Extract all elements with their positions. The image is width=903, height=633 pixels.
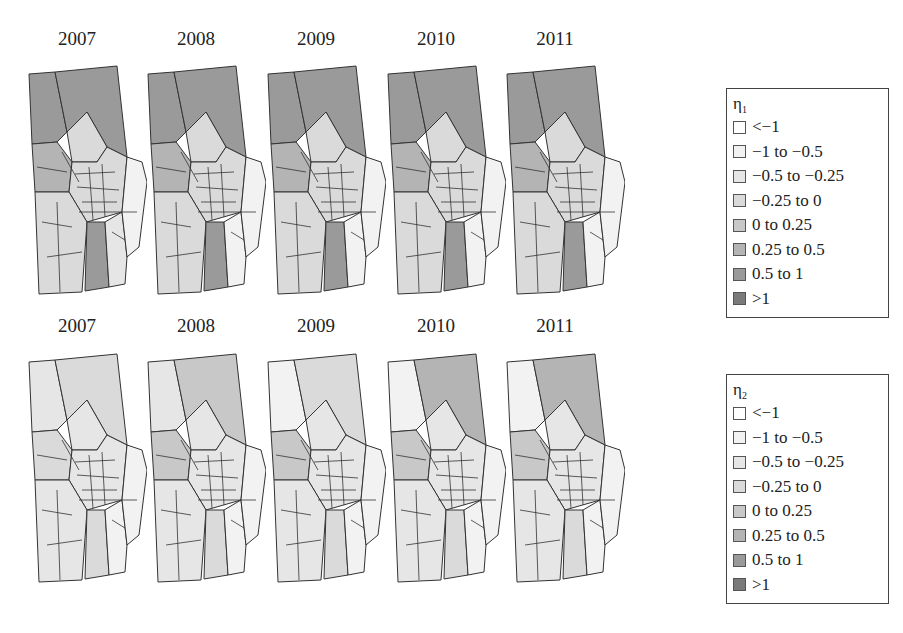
year-label-top-2011: 2011 (505, 28, 605, 50)
legend-item: 0.5 to 1 (733, 548, 888, 573)
year-label-bottom-2011: 2011 (505, 315, 605, 337)
legend-swatch (733, 480, 746, 493)
legend-item: >1 (733, 287, 888, 312)
year-label-top-2007: 2007 (27, 28, 127, 50)
legend-swatch (733, 529, 746, 542)
legend-item: −0.25 to 0 (733, 475, 888, 500)
legend-swatch (733, 268, 746, 281)
year-label-top-2010: 2010 (386, 28, 486, 50)
map-top-2008 (146, 62, 266, 302)
legend-swatch (733, 145, 746, 158)
legend-swatch (733, 219, 746, 232)
legend-swatch (733, 194, 746, 207)
year-label-bottom-2007: 2007 (27, 315, 127, 337)
legend-item: −1 to −0.5 (733, 426, 888, 451)
year-label-bottom-2008: 2008 (146, 315, 246, 337)
legend-swatch (733, 170, 746, 183)
map-bottom-2008 (146, 350, 266, 590)
legend-swatch (733, 243, 746, 256)
map-bottom-2010 (386, 350, 506, 590)
legend-swatch (733, 505, 746, 518)
legend-swatch (733, 407, 746, 420)
map-bottom-2009 (266, 350, 386, 590)
year-label-top-2009: 2009 (266, 28, 366, 50)
legend-item: 0.5 to 1 (733, 262, 888, 287)
year-label-bottom-2009: 2009 (266, 315, 366, 337)
legend-swatch (733, 292, 746, 305)
legend-item: −0.5 to −0.25 (733, 450, 888, 475)
legend-item: −1 to −0.5 (733, 140, 888, 165)
legend-item: <−1 (733, 401, 888, 426)
legend-swatch (733, 554, 746, 567)
legend-swatch (733, 121, 746, 134)
map-top-2010 (386, 62, 506, 302)
legend-eta2: η2 <−1 −1 to −0.5 −0.5 to −0.25 −0.25 to… (726, 374, 889, 604)
map-bottom-2007 (27, 350, 147, 590)
legend-swatch (733, 456, 746, 469)
year-label-bottom-2010: 2010 (386, 315, 486, 337)
map-top-2007 (27, 62, 147, 302)
legend-item: 0 to 0.25 (733, 499, 888, 524)
legend-item: −0.25 to 0 (733, 189, 888, 214)
legend-item: 0.25 to 0.5 (733, 524, 888, 549)
legend-item: −0.5 to −0.25 (733, 164, 888, 189)
legend-swatch (733, 431, 746, 444)
legend-item: >1 (733, 573, 888, 598)
map-top-2009 (266, 62, 386, 302)
legend-item: 0.25 to 0.5 (733, 238, 888, 263)
legend-item: 0 to 0.25 (733, 213, 888, 238)
legend-title-eta1: η1 (733, 93, 888, 115)
legend-item: <−1 (733, 115, 888, 140)
legend-title-eta2: η2 (733, 379, 888, 401)
year-label-top-2008: 2008 (146, 28, 246, 50)
legend-eta1: η1 <−1 −1 to −0.5 −0.5 to −0.25 −0.25 to… (726, 88, 889, 318)
legend-swatch (733, 578, 746, 591)
map-bottom-2011 (505, 350, 625, 590)
map-top-2011 (505, 62, 625, 302)
